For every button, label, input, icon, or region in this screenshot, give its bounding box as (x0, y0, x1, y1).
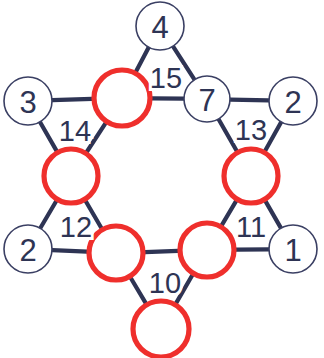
graph-node[interactable]: 2 (269, 77, 317, 125)
node-label: 3 (19, 85, 36, 120)
node-label: 4 (151, 10, 168, 45)
node-label: 2 (284, 85, 301, 120)
graph-edge (136, 48, 149, 72)
node-label: 1 (284, 233, 301, 268)
edge-label: 10 (149, 267, 181, 299)
graph-node[interactable]: 4 (136, 2, 184, 50)
edge-label: 11 (236, 211, 266, 243)
graph-edge (131, 278, 146, 303)
graph-edge (265, 201, 280, 228)
graph-node-marked[interactable] (94, 70, 150, 126)
node-circle-marked (94, 70, 150, 126)
graph-node-marked[interactable] (44, 149, 98, 203)
graph-diagram: 437221 151514141313121211111010 (0, 0, 324, 358)
graph-edge (40, 201, 56, 228)
graph-node-marked[interactable] (224, 149, 278, 203)
graph-node-marked[interactable] (133, 301, 189, 357)
graph-edge (230, 100, 268, 101)
graph-edge (265, 122, 281, 150)
edge-label: 15 (150, 62, 182, 94)
graph-edge (52, 99, 92, 100)
node-circle-marked (44, 149, 98, 203)
node-circle-marked (224, 149, 278, 203)
graph-node-marked[interactable] (89, 226, 143, 280)
node-label: 2 (19, 233, 36, 268)
node-circle-marked (89, 226, 143, 280)
graph-node[interactable]: 1 (269, 225, 317, 273)
graph-edge (40, 122, 56, 151)
graph-edge (52, 250, 87, 252)
graph-edge (145, 251, 178, 252)
node-circle-marked (133, 301, 189, 357)
edge-label: 14 (59, 115, 91, 147)
graph-edge (222, 201, 236, 225)
graph-node[interactable]: 2 (4, 225, 52, 273)
graph-node[interactable]: 7 (184, 76, 230, 122)
edge-label: 12 (60, 211, 92, 243)
graph-canvas: 437221 151514141313121211111010 (0, 0, 324, 358)
graph-node[interactable]: 3 (4, 77, 52, 125)
node-circle-marked (180, 223, 234, 277)
edge-label: 13 (235, 114, 267, 146)
nodes-layer: 437221 (4, 2, 317, 357)
node-label: 7 (198, 83, 215, 118)
graph-node-marked[interactable] (180, 223, 234, 277)
